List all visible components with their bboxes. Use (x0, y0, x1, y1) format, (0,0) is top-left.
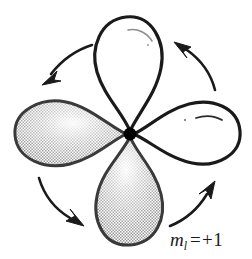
arrow-bottom-right-shaft (170, 194, 207, 226)
lobe-right (134, 102, 240, 164)
center-nucleus-dot (124, 128, 137, 141)
arrow-top-right-shaft (187, 50, 215, 90)
arrow-bottom-left (39, 178, 84, 226)
lobe-top-outline (95, 17, 162, 131)
lobe-bottom (96, 137, 163, 245)
lobe-right-outline (134, 102, 240, 164)
arrow-top-left-shaft (51, 45, 92, 74)
quantum-subscript: l (184, 239, 187, 253)
arrow-top-right (174, 42, 215, 90)
lobe-right-highlight-dot (184, 119, 186, 121)
orbital-diagram-svg (0, 0, 252, 259)
lobe-bottom-highlight (96, 137, 163, 245)
quantum-symbol: m (170, 229, 184, 250)
arrow-top-left (42, 45, 92, 85)
lobe-left-highlight (15, 101, 126, 166)
quantum-value: +1 (202, 229, 223, 250)
quantum-number-label: ml=+1 (170, 229, 223, 254)
arrow-bottom-right (170, 181, 215, 226)
quantum-equals: = (190, 229, 201, 250)
lobe-top (95, 17, 162, 131)
lobe-left (15, 101, 126, 166)
orbital-diagram-figure: ml=+1 (0, 0, 252, 259)
lobe-top-highlight-dot (147, 44, 149, 46)
arrow-bottom-left-shaft (39, 178, 70, 218)
